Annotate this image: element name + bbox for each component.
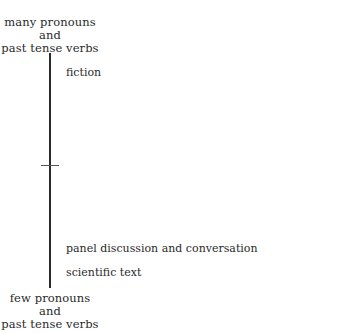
scale-item-fiction: fiction <box>66 66 101 79</box>
bottom-pole-line-3: past tense verbs <box>0 318 100 331</box>
scale-midpoint-tick <box>41 165 59 166</box>
top-pole-label: many pronouns and past tense verbs <box>0 16 100 55</box>
scale-item-panel-discussion: panel discussion and conversation <box>66 242 258 255</box>
bottom-pole-label: few pronouns and past tense verbs <box>0 292 100 331</box>
scale-item-scientific-text: scientific text <box>66 266 141 279</box>
scale-axis-line <box>49 53 51 288</box>
